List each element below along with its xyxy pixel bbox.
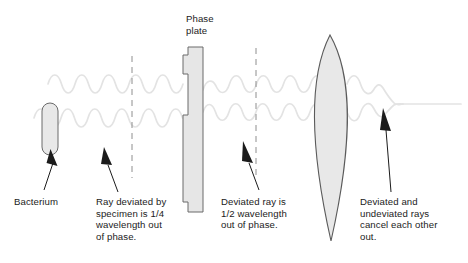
ray-deviated-leader xyxy=(101,147,118,192)
deviated-half-wavelength-label: Deviated ray is 1/2 wavelength out of ph… xyxy=(221,196,287,231)
objective-lens-shape xyxy=(314,35,347,241)
phase-plate-label: Phase plate xyxy=(186,13,214,36)
phase-plate-shape xyxy=(183,47,203,212)
ray-deviated-label: Ray deviated by specimen is 1/4 waveleng… xyxy=(96,196,166,242)
bacterium-label: Bacterium xyxy=(14,196,58,208)
cancel-leader xyxy=(380,108,391,192)
figure-canvas: Phase plate Bacterium Ray deviated by sp… xyxy=(0,0,468,263)
deviated-wave-after-plate xyxy=(203,104,324,121)
converging-wave-upper xyxy=(347,76,403,105)
bacterium-shape xyxy=(42,103,58,155)
bacterium-leader xyxy=(44,149,58,190)
undeviated-wave-after-plate xyxy=(203,76,324,93)
undeviated-wave-before-plate xyxy=(48,75,183,93)
converging-wave-lower xyxy=(347,104,403,121)
cancel-rays-label: Deviated and undeviated rays cancel each… xyxy=(360,196,437,242)
